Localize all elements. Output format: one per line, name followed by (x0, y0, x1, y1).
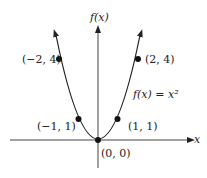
point-label-2-4: (2, 4) (145, 54, 175, 65)
curve-label: f(x) = x² (133, 89, 179, 100)
point-2-4 (135, 56, 141, 62)
point-label-neg2-4: (−2, 4) (22, 54, 61, 65)
point-label-1-1: (1, 1) (128, 121, 158, 132)
point-label-0-0: (0, 0) (101, 148, 131, 159)
y-axis-label: f(x) (90, 12, 109, 23)
point-neg1-1 (76, 116, 82, 122)
curve-label-text: f(x) = x² (133, 88, 179, 101)
point-label-neg1-1: (−1, 1) (37, 121, 76, 132)
point-0-0 (95, 137, 101, 143)
point-1-1 (115, 116, 121, 122)
x-axis-label: x (194, 134, 200, 145)
